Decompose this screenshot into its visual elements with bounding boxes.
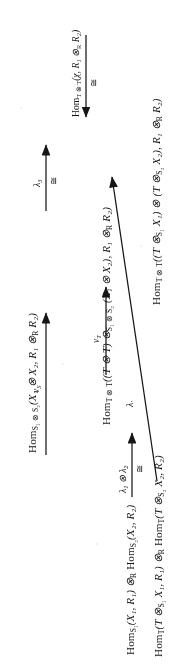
arrow-label-top-horizontal: λ3 (31, 180, 42, 187)
scan-speck (20, 107, 22, 109)
node-bm-sub2: R (157, 549, 166, 554)
arrow-label-left-vertical: νS (30, 385, 41, 393)
scan-speck (62, 363, 64, 365)
node-r-sub1: S₁ (155, 229, 164, 236)
label-nu-t: ν (90, 339, 101, 343)
label-lambda3: λ (31, 183, 42, 187)
node-right: HomT ⊗ T((T ⊗S₁ X₁) ⊗ (T ⊗S₂ X₂), R₁ ⊗R … (150, 98, 163, 305)
label-nu-s-sub: S (35, 385, 42, 388)
arrow-iso-right-horizontal: ≅ (88, 79, 99, 87)
node-tm-hom-sub: T ⊗ T (105, 382, 114, 402)
node-bl-tensor-sub: R (129, 573, 138, 578)
label-nu-t-sub: T (95, 335, 102, 339)
node-tl-hom-sub: S₁ ⊗ S₂ (31, 405, 40, 430)
node-bm-hom1-sub: T (157, 630, 166, 635)
node-r-args1: ((T ⊗ (150, 236, 162, 262)
label-lambda2: ⊗ λ (117, 469, 128, 486)
scan-speck (140, 245, 142, 247)
scan-speck (96, 543, 98, 545)
label-nu-s: ν (30, 389, 41, 393)
label-lambda2-sub: 2 (122, 465, 129, 468)
node-bottom-middle: HomT(T ⊗S₁ X₁, R₁) ⊗R HomT(T ⊗S₂ X₂, R₂) (152, 455, 165, 657)
node-bl-args1: (X₁, R₁) ⊗ (124, 578, 136, 625)
node-top-middle: HomT ⊗ T((T ⊗ T) ⊗S₁ ⊗ S₂ (X₁ ⊗ X₂), R₁ … (100, 207, 113, 425)
node-top-left: HomS₁ ⊗ S₂(X₁ ⊗ X₂, R₁ ⊗R R₂) (26, 313, 39, 453)
node-r-args3: X₂), R₁ ⊗ (150, 121, 162, 167)
label-lambda3-sub: 3 (36, 180, 43, 183)
node-bm-args2: X₁, R₁) ⊗ (152, 554, 164, 600)
node-tl-args: (X₁ ⊗ X₂, R₁ ⊗ (26, 336, 38, 405)
node-tm-sub2: R (105, 225, 114, 230)
node-bm-args4: X₂, R₂) (152, 455, 164, 489)
node-r-hom-sub: T ⊗ T (155, 262, 164, 282)
label-lambda-prime: λ (124, 403, 135, 407)
node-bl-hom1-sub: S₁ (129, 625, 138, 632)
node-bm-hom2-sub: T (157, 519, 166, 524)
node-tm-args2: (X₁ ⊗ X₂), R₁ ⊗ (100, 230, 112, 306)
node-bm-sub1: S₁ (157, 601, 166, 608)
node-bm-sub3: S₂ (157, 490, 166, 497)
commutative-diagram: HomS₁(X₁, R₁) ⊗R HomS₂(X₂, R₂) HomS₁ ⊗ S… (0, 0, 175, 665)
arrow-label-diagonal: λ′ (124, 401, 135, 407)
node-r-args2: X₁) ⊗ (T ⊗ (150, 175, 162, 229)
node-r-sub2: S₂ (155, 168, 164, 175)
node-r-hom: Hom (150, 282, 162, 305)
node-bm-hom2: Hom (152, 523, 164, 546)
node-bl-hom2-sub: S₂ (129, 540, 138, 547)
label-rh-sub: R (75, 45, 82, 49)
label-rh-hom-sub: T ⊗ T (75, 81, 82, 98)
node-tm-sub1: S₁ ⊗ S₂ (105, 306, 114, 331)
node-tl-args2: R₂) (26, 313, 38, 331)
rotated-page-wrapper: HomS₁(X₁, R₁) ⊗R HomS₂(X₂, R₂) HomS₁ ⊗ S… (0, 0, 175, 665)
node-bl-hom2: Hom (124, 547, 136, 570)
arrow-label-middle-vertical: νT (90, 335, 101, 343)
label-rh-args2: R₂) (70, 30, 81, 45)
label-rh-hom: Hom (70, 98, 81, 117)
arrow-iso-top-horizontal: ≅ (48, 177, 59, 185)
node-tl-hom: Hom (26, 430, 38, 453)
arrow-iso-bottom-horizontal: ≅ (134, 465, 145, 473)
label-lambda1-sub: 1 (122, 486, 129, 489)
node-bm-args3: (T ⊗ (152, 497, 164, 519)
node-bm-hom1: Hom (152, 634, 164, 657)
node-bottom-left: HomS₁(X₁, R₁) ⊗R HomS₂(X₂, R₂) (124, 505, 137, 655)
node-tl-tensor-sub: R (31, 331, 40, 336)
node-bm-args1: (T ⊗ (152, 608, 164, 630)
node-tm-hom: Hom (100, 402, 112, 425)
label-lambda1: λ (117, 489, 128, 493)
label-lambda-prime-sub: ′ (129, 401, 136, 402)
node-bl-args2: (X₂, R₂) (124, 505, 136, 540)
node-bl-hom1: Hom (124, 632, 136, 655)
node-r-sub3: R (155, 116, 164, 121)
node-r-args4: R₂) (150, 98, 162, 116)
arrow-label-bottom-horizontal: λ1 ⊗ λ2 (117, 465, 128, 493)
node-tm-args3: R₂) (100, 207, 112, 225)
label-rh-args: (χ, R₁ ⊗ (70, 49, 81, 81)
arrow-label-right-horizontal: HomT ⊗ T(χ, R₁ ⊗R R₂) (70, 30, 81, 117)
